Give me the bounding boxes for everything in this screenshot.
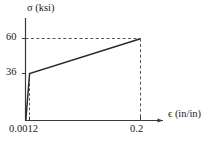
y-tick-label-60: 60 <box>6 32 17 43</box>
x-tick-label-0-2: 0.2 <box>130 124 143 135</box>
plot-area <box>0 0 210 143</box>
y-tick-label-36: 36 <box>6 67 17 78</box>
x-axis-title: ϵ (in/in) <box>168 109 201 120</box>
x-axis-arrow-icon <box>158 118 164 122</box>
stress-strain-diagram: σ (ksi) ϵ (in/in) 60 36 0.0012 0.2 <box>0 0 210 143</box>
y-axis-title: σ (ksi) <box>27 3 55 14</box>
stress-strain-curve <box>26 39 141 121</box>
x-tick-label-0-0012: 0.0012 <box>9 124 38 135</box>
